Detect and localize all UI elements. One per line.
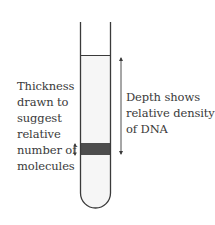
thickness-label-line: relative [17,126,79,142]
depth-label: Depth shows relative density of DNA [126,89,215,137]
thickness-label-line: molecules [17,158,79,174]
thickness-label-line: Thickness [17,78,79,94]
depth-label-line: of DNA [126,121,215,137]
thickness-label-line: number of [17,142,79,158]
thickness-label-line: drawn to [17,94,79,110]
depth-label-line: relative density [126,105,215,121]
dna-band [81,143,111,155]
depth-arrow-icon [119,57,123,155]
density-gradient-diagram: Thickness drawn to suggest relative numb… [0,0,215,225]
thickness-label-line: suggest [17,110,79,126]
depth-label-line: Depth shows [126,89,215,105]
liquid-column [81,56,111,209]
thickness-label: Thickness drawn to suggest relative numb… [17,78,79,174]
